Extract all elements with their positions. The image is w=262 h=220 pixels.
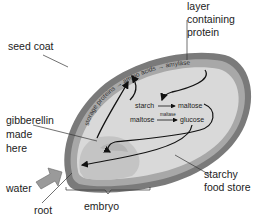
gibberellin-label-3: here (6, 142, 27, 154)
glucose-label: glucose (180, 116, 204, 124)
gibberellin-label-1: gibberellin (6, 114, 54, 126)
seed-coat-leader (43, 55, 68, 67)
layer-label-3: protein (187, 26, 219, 38)
seed-diagram: storage proteins → amino acids → amylase… (0, 0, 262, 220)
embryo-label: embryo (84, 200, 119, 212)
gibberellin-label-2: made (6, 128, 32, 140)
water-arrow (36, 168, 62, 189)
maltose-label-1: maltose (178, 102, 203, 109)
maltase-label: maltase (160, 112, 176, 117)
water-label: water (5, 182, 32, 194)
starch-label: starch (135, 102, 154, 109)
layer-label-2: containing (187, 13, 235, 25)
root-label: root (34, 204, 52, 216)
maltose-label-2: maltose (130, 116, 155, 123)
starchy-label-1: starchy (204, 168, 239, 180)
starchy-label-2: food store (204, 181, 251, 193)
seed-coat-label: seed coat (8, 40, 54, 52)
layer-label-1: layer (187, 0, 210, 12)
